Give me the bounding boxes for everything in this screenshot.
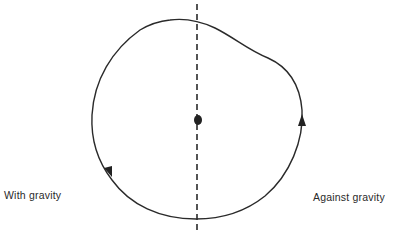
- arrow-up-icon: [298, 114, 306, 126]
- label-with-gravity: With gravity: [4, 189, 61, 201]
- center-point: [194, 115, 202, 125]
- label-against-gravity: Against gravity: [313, 191, 385, 203]
